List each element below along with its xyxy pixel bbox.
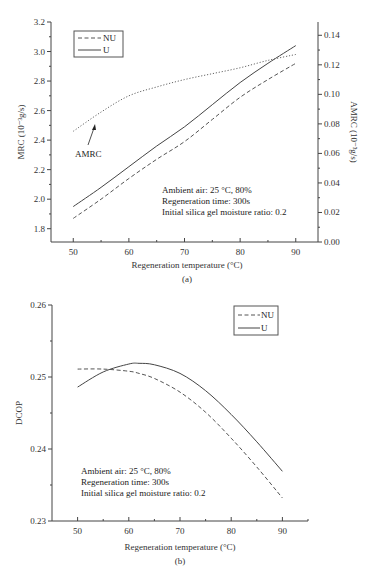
chart-a-y-right-tick-label: 0.06 [324,148,340,158]
chart-a-y-tick-label: 2.0 [34,194,46,204]
condition-moisture: Initial silica gel moisture ratio: 0.2 [162,207,286,217]
legend-label-nu: NU [261,310,274,320]
chart-b-x-tick-label: 90 [278,526,288,536]
chart-a-conditions: Ambient air: 25 °C, 80% Regeneration tim… [162,185,286,217]
chart-a-y-right-tick-label: 0.02 [324,207,340,217]
chart-a-y-tick-label: 3.0 [34,47,46,57]
chart-b-y-tick-label: 0.25 [30,372,46,382]
chart-a-y-right-tick-label: 0.00 [324,237,340,247]
amrc-label: AMRC [75,149,102,159]
chart-a-ylabel: MRC (10⁻³g/s) [16,104,26,159]
chart-b-y-tick-label: 0.26 [30,300,46,310]
condition-ambient: Ambient air: 25 °C, 80% [81,466,171,476]
legend-label-u: U [103,45,110,55]
chart-b-y-tick-label: 0.24 [30,444,46,454]
chart-b-xlabel: Regeneration temperature (°C) [124,542,235,552]
chart-a-y-tick-label: 2.8 [34,76,46,86]
chart-a-x-tick-label: 70 [180,247,190,257]
chart-b-caption: (b) [175,556,186,566]
condition-time: Regeneration time: 300s [162,196,250,206]
legend-label-u: U [261,323,268,333]
chart-b-x-tick-label: 60 [124,526,134,536]
chart-a-y-right-tick-label: 0.14 [324,30,340,40]
chart-b-x-tick-label: 80 [227,526,237,536]
condition-moisture: Initial silica gel moisture ratio: 0.2 [81,488,205,498]
chart-a-y-right-tick-label: 0.08 [324,119,340,129]
chart-b-x-tick-label: 70 [176,526,186,536]
chart-a-x-tick-label: 80 [236,247,246,257]
chart-a-x-tick-label: 90 [291,247,301,257]
chart-a-series-u [73,46,296,207]
chart-b-x-tick-label: 50 [73,526,83,536]
chart-a-y-right-tick-label: 0.10 [324,89,340,99]
chart-b-y-tick-label: 0.23 [30,516,46,526]
chart-a-xlabel: Regeneration temperature (°C) [131,260,242,270]
chart-a-ylabel-right: AMRC (10⁻³g/s) [349,101,359,163]
chart-a-y-tick-label: 2.2 [34,165,45,175]
chart-a: 50607080901.82.02.22.42.62.83.03.20.000.… [16,17,359,284]
chart-a-y-tick-label: 2.4 [34,135,46,145]
legend-label-nu: NU [103,33,116,43]
chart-a-caption: (a) [182,274,192,284]
chart-a-series-amrc [73,54,296,131]
chart-a-y-tick-label: 3.2 [34,17,45,27]
chart-b-legend: NU U [234,306,278,335]
chart-a-x-tick-label: 60 [124,247,134,257]
chart-a-y-right-tick-label: 0.12 [324,60,340,70]
chart-a-y-right-tick-label: 0.04 [324,178,340,188]
amrc-arrow-line [88,128,94,145]
chart-b-series-u [78,363,283,471]
chart-b-conditions: Ambient air: 25 °C, 80% Regeneration tim… [81,466,205,498]
chart-a-amrc-annotation: AMRC [75,124,102,159]
chart-a-legend: NU U [74,31,123,57]
chart-a-y-tick-label: 2.6 [34,106,46,116]
chart-b-ylabel: DCOP [14,401,24,425]
condition-ambient: Ambient air: 25 °C, 80% [162,185,252,195]
chart-a-x-tick-label: 50 [69,247,79,257]
amrc-arrow-head-icon [92,124,96,130]
chart-a-y-tick-label: 1.8 [34,224,46,234]
chart-b: 50607080900.230.240.250.26 Regeneration … [14,300,308,566]
figure: 50607080901.82.02.22.42.62.83.03.20.000.… [0,0,373,583]
condition-time: Regeneration time: 300s [81,477,169,487]
